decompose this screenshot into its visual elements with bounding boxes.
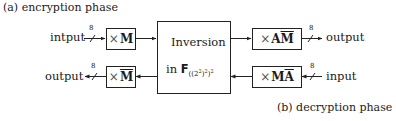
- field-symbol: F: [181, 62, 189, 76]
- encryption-input-bus-width: 8: [89, 25, 93, 32]
- multiply-m-abar-box: ×MA: [252, 66, 302, 88]
- matrix-a: A: [271, 32, 280, 46]
- encryption-output-bus-width: 8: [309, 25, 313, 32]
- decryption-input-bus-width: 8: [310, 63, 314, 70]
- multiply-m-box: ×M: [106, 28, 136, 50]
- multiply-operator: ×: [260, 70, 270, 84]
- matrix-m-bar: M: [120, 70, 133, 84]
- inversion-field: in F((22)2)2: [166, 62, 214, 78]
- encryption-output-label: output: [326, 32, 364, 44]
- decryption-output-bus-width: 8: [91, 63, 95, 70]
- matrix-m: M: [120, 32, 133, 46]
- decryption-output-label: output: [45, 71, 83, 83]
- multiply-operator: ×: [260, 32, 270, 46]
- matrix-a-bar: A: [285, 70, 294, 84]
- field-subscript: ((22)2)2: [189, 70, 214, 78]
- encryption-input-label: intput: [50, 32, 85, 44]
- decryption-input-label: input: [326, 71, 356, 83]
- matrix-m-bar: M: [281, 32, 294, 46]
- multiply-operator: ×: [109, 32, 119, 46]
- multiply-mbar-box: ×M: [106, 66, 136, 88]
- sub-exp3: 2: [210, 68, 213, 74]
- inversion-title: Inversion: [171, 35, 226, 49]
- inversion-block: Inversion in F((22)2)2: [157, 21, 231, 94]
- sub-part: ((2: [189, 70, 199, 78]
- multiply-operator: ×: [109, 70, 119, 84]
- inversion-field-prefix: in: [166, 62, 181, 76]
- multiply-a-mbar-box: ×AM: [252, 28, 302, 50]
- matrix-m: M: [271, 70, 284, 84]
